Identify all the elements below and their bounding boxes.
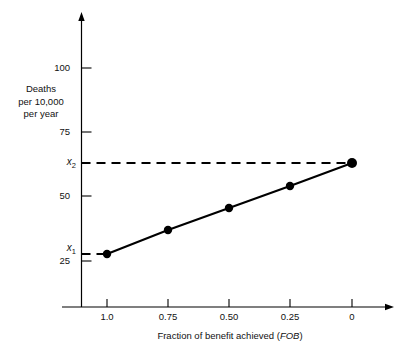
data-point-marker: [103, 250, 111, 258]
chart-plot-area: [0, 0, 412, 352]
x-axis-label-abbrev: FOB: [280, 330, 300, 341]
x-axis-arrow-icon: [385, 304, 394, 310]
y-axis-ticks: [82, 68, 92, 261]
annotation-label-x1: x1: [46, 242, 76, 256]
y-tick-label-100: 100: [30, 62, 70, 73]
x-axis-label-tail: ): [299, 330, 302, 341]
x-axis-label: Fraction of benefit achieved (FOB): [110, 330, 350, 343]
data-point-marker: [225, 204, 233, 212]
y-tick-label-50: 50: [30, 190, 70, 201]
x-tick-label-0: 0: [332, 311, 372, 322]
x-tick-label-0-25: 0.25: [270, 311, 310, 322]
y-axis-label: Deaths per 10,000 per year: [8, 83, 74, 121]
data-point-marker: [347, 158, 357, 168]
annotation-label-x1-sub: 1: [72, 247, 76, 256]
y-axis: [78, 12, 84, 307]
y-axis-arrow-icon: [78, 12, 84, 21]
y-axis-label-line-3: per year: [8, 108, 74, 121]
annotation-label-x2-sub: 2: [72, 161, 76, 170]
x-axis-ticks: [107, 299, 352, 307]
x-tick-label-0-50: 0.50: [209, 311, 249, 322]
data-point-markers: [103, 158, 357, 258]
x-tick-label-0-75: 0.75: [148, 311, 188, 322]
data-point-marker: [164, 226, 172, 234]
annotation-label-x2: x2: [46, 156, 76, 170]
data-point-marker: [286, 182, 294, 190]
y-axis-label-line-1: Deaths: [8, 83, 74, 96]
x-axis: [62, 304, 394, 310]
x-tick-label-1-0: 1.0: [87, 311, 127, 322]
y-tick-label-25: 25: [30, 255, 70, 266]
y-tick-label-75: 75: [30, 126, 70, 137]
x-axis-label-text: Fraction of benefit achieved (: [157, 330, 280, 341]
chart-figure: Deaths per 10,000 per year 100 75 50 25 …: [0, 0, 412, 352]
y-axis-label-line-2: per 10,000: [8, 96, 74, 109]
